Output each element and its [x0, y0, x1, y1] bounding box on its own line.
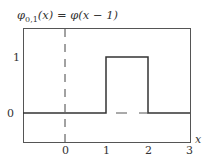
- x-tick-0: 0: [62, 145, 69, 156]
- plot-frame: [24, 29, 191, 143]
- y-tick-0: 0: [7, 108, 14, 119]
- function-curve: [23, 57, 190, 113]
- x-axis-label: x: [195, 134, 201, 145]
- x-tick-2: 2: [145, 145, 152, 156]
- x-tick-3: 3: [186, 145, 193, 156]
- x-tick-1: 1: [103, 145, 110, 156]
- step-function-plot: [0, 0, 205, 157]
- y-tick-1: 1: [13, 52, 20, 63]
